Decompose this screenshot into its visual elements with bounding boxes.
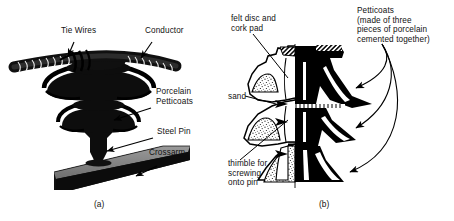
caption-panel-b: (b) bbox=[319, 199, 329, 209]
insulator-figure: Tie Wires Conductor Porcelain Petticoats… bbox=[0, 0, 454, 221]
label-sand: sand bbox=[228, 92, 246, 102]
label-tie-wires: Tie Wires bbox=[61, 26, 96, 36]
label-thimble: thimble for screwing onto pin bbox=[228, 159, 267, 188]
label-porcelain-petticoats: Porcelain Petticoats bbox=[156, 87, 193, 106]
label-crossarm: Crossarm bbox=[149, 148, 185, 158]
label-felt-disc-and-cork-pad: felt disc and cork pad bbox=[231, 14, 276, 33]
label-conductor: Conductor bbox=[145, 26, 184, 36]
caption-panel-a: (a) bbox=[94, 199, 104, 209]
label-petticoats-note: Petticoats (made of three pieces of porc… bbox=[357, 6, 430, 44]
label-steel-pin: Steel Pin bbox=[157, 127, 191, 137]
